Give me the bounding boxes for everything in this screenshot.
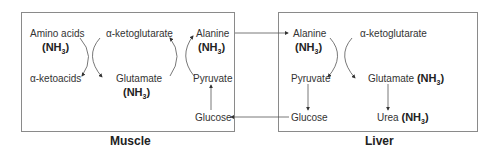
arrow-pyruvate-to-alanine [186,36,194,76]
arrow-akg-to-glutamate [92,38,102,77]
arrow-glutamate-to-akg [170,38,177,76]
arrow-amino-to-ketoacids [80,38,89,76]
arrow-alanine-to-pyruvate [328,38,338,77]
arrows-layer [0,0,494,154]
arrow-akg-to-glutamate-liver [345,38,355,78]
